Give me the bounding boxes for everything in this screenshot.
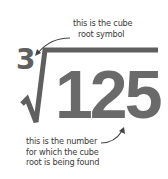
number-annotation-line: this is the number: [26, 136, 136, 147]
number-annotation-line: root is being found: [26, 157, 136, 168]
symbol-annotation: this is the cube root symbol: [73, 18, 153, 39]
radicand-number: 125: [55, 60, 159, 128]
number-annotation-line: for which the cube: [26, 147, 136, 158]
number-annotation: this is the number for which the cube ro…: [26, 136, 136, 168]
cube-root-diagram: 3 125 this is the cube root symbol this …: [0, 0, 168, 179]
root-index: 3: [16, 46, 35, 74]
symbol-annotation-line: this is the cube: [73, 18, 153, 29]
symbol-annotation-line: root symbol: [73, 29, 153, 40]
